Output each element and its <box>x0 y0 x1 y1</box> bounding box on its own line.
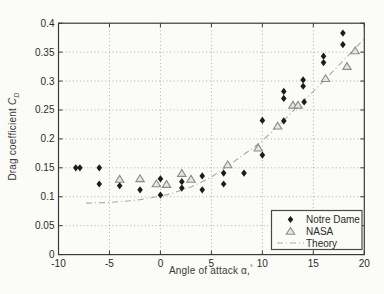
scanned-figure-page: { "figure": { "xlabel": { "text": "Angle… <box>0 0 384 294</box>
x-axis-label-text: Angle of attack <box>169 265 241 276</box>
x-axis-label: Angle of attack α,° <box>111 265 311 276</box>
notre-dame-data-point <box>281 88 287 95</box>
legend-label-theory: Theory <box>306 238 337 249</box>
y-tick-label: 0.1 <box>41 191 55 202</box>
notre-dame-data-point <box>96 164 102 171</box>
notre-dame-data-point <box>301 98 307 105</box>
notre-dame-data-point <box>221 169 227 176</box>
y-tick-label: 0.15 <box>35 162 55 173</box>
notre-dame-data-point <box>300 76 306 83</box>
x-tick-label: 20 <box>359 258 371 269</box>
notre-dame-data-point <box>321 59 327 66</box>
nasa-data-point <box>136 175 144 182</box>
y-tick-label: 0.35 <box>35 47 55 58</box>
legend-label-nasa: NASA <box>306 226 334 237</box>
notre-dame-data-point <box>221 180 227 187</box>
notre-dame-data-point <box>340 41 346 48</box>
drag-vs-angle-of-attack-chart: -10-50510152000.050.10.150.20.250.30.350… <box>0 0 384 294</box>
nasa-data-point <box>254 144 262 151</box>
notre-dame-data-point <box>179 178 185 185</box>
notre-dame-data-point <box>137 186 143 193</box>
y-tick-label: 0.2 <box>41 133 55 144</box>
nasa-data-point <box>351 47 359 54</box>
notre-dame-data-point <box>260 151 266 158</box>
notre-dame-data-point <box>260 117 266 124</box>
alpha-symbol: α, <box>241 265 250 276</box>
notre-dame-data-point <box>77 164 83 171</box>
notre-dame-data-point <box>199 186 205 193</box>
nasa-data-point <box>115 175 123 182</box>
cd-subscript: D <box>13 92 20 97</box>
notre-dame-data-point <box>117 182 123 189</box>
legend-label-notre-dame: Notre Dame <box>306 214 360 225</box>
drag-coefficient-figure: -10-50510152000.050.10.150.20.250.30.350… <box>0 0 384 294</box>
nasa-data-point <box>321 75 329 82</box>
notre-dame-data-point <box>158 175 164 182</box>
y-tick-label: 0.4 <box>41 18 55 29</box>
nasa-data-point <box>178 170 186 177</box>
cd-symbol: C <box>7 98 18 105</box>
y-tick-label: 0.3 <box>41 76 55 87</box>
y-tick-label: 0.25 <box>35 104 55 115</box>
notre-dame-data-point <box>96 180 102 187</box>
notre-dame-data-point <box>340 29 346 36</box>
nasa-data-point <box>162 181 170 188</box>
y-tick-label: 0.05 <box>35 220 55 231</box>
notre-dame-data-point <box>158 191 164 198</box>
y-axis-label-text: Drag coefficient <box>7 105 18 180</box>
y-axis-label: Drag coefficient CD <box>7 17 18 257</box>
nasa-data-point <box>152 180 160 187</box>
notre-dame-data-point <box>300 83 306 90</box>
nasa-data-point <box>343 63 351 70</box>
notre-dame-data-point <box>199 172 205 179</box>
notre-dame-data-point <box>281 95 287 102</box>
notre-dame-data-point <box>241 169 247 176</box>
degree-symbol: ° <box>250 264 253 271</box>
notre-dame-data-point <box>321 53 327 60</box>
nasa-data-point <box>187 175 195 182</box>
y-tick-label: 0 <box>49 249 55 260</box>
